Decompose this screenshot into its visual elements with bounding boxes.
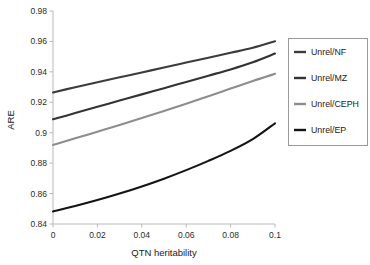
axis-lines (53, 11, 275, 224)
series-line (53, 123, 275, 211)
legend-label: Unrel/EP (311, 125, 346, 135)
x-tick-label: 0 (51, 230, 56, 240)
legend-label: Unrel/CEPH (311, 99, 359, 109)
chart-figure: 0.840.860.880.90.920.940.960.98 00.020.0… (0, 0, 370, 265)
axis-tick-marks (50, 11, 276, 228)
x-axis-tick-labels: 00.020.040.060.080.1 (51, 230, 282, 240)
x-tick-label: 0.1 (269, 230, 281, 240)
y-axis-title: ARE (5, 110, 16, 130)
x-tick-label: 0.08 (222, 230, 239, 240)
x-tick-label: 0.06 (178, 230, 195, 240)
series-line (53, 54, 275, 120)
legend-label: Unrel/NF (311, 47, 347, 57)
chart-canvas: 0.840.860.880.90.920.940.960.98 00.020.0… (0, 0, 370, 265)
y-tick-label: 0.9 (35, 128, 47, 138)
y-tick-label: 0.94 (30, 67, 47, 77)
y-tick-label: 0.92 (30, 97, 47, 107)
legend-label: Unrel/MZ (311, 73, 348, 83)
y-tick-label: 0.84 (30, 219, 47, 229)
y-tick-label: 0.96 (30, 36, 47, 46)
y-tick-label: 0.98 (30, 6, 47, 16)
y-axis-tick-labels: 0.840.860.880.90.920.940.960.98 (30, 6, 47, 229)
y-tick-label: 0.88 (30, 158, 47, 168)
y-tick-label: 0.86 (30, 189, 47, 199)
series-lines (53, 41, 275, 211)
x-tick-label: 0.04 (134, 230, 151, 240)
x-axis-title: QTN heritability (131, 247, 197, 258)
x-tick-label: 0.02 (89, 230, 106, 240)
